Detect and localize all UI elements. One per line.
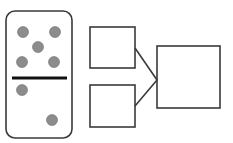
dot bbox=[47, 115, 58, 126]
connector-lines bbox=[135, 48, 157, 106]
domino bbox=[6, 11, 72, 138]
domino-outline bbox=[6, 11, 72, 138]
whole-box[interactable] bbox=[157, 46, 220, 108]
number-bond-diagram bbox=[0, 0, 233, 143]
dot bbox=[17, 57, 28, 68]
part-box-top[interactable] bbox=[90, 27, 135, 68]
dot bbox=[50, 27, 61, 38]
part-box-bottom[interactable] bbox=[90, 85, 135, 127]
dot bbox=[17, 85, 28, 96]
connector-top bbox=[135, 48, 157, 80]
connector-bottom bbox=[135, 80, 157, 106]
dot bbox=[33, 42, 44, 53]
dot bbox=[18, 27, 29, 38]
dot bbox=[49, 57, 60, 68]
